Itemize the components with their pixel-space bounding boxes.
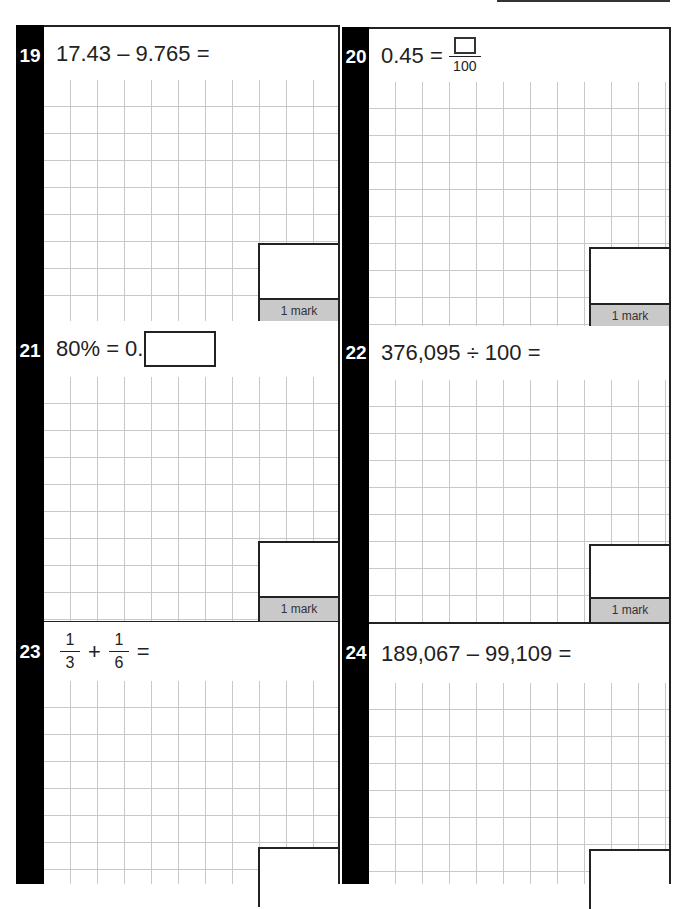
question-number-bar: 23 (16, 622, 44, 884)
top-rule (497, 0, 670, 2)
answer-box[interactable]: 1 mark (589, 247, 669, 330)
question-header: 17.43 – 9.765 = (44, 27, 338, 82)
mark-label: 1 mark (260, 298, 338, 323)
denominator: 100 (453, 58, 476, 74)
question-number: 23 (16, 641, 44, 663)
question-number-bar: 22 (342, 326, 370, 624)
question-number: 21 (16, 340, 44, 362)
numerator-answer-box[interactable] (454, 37, 476, 54)
fraction-bar (449, 56, 481, 58)
fraction-one-sixth: 1 6 (109, 631, 129, 673)
question-number-bar: 24 (342, 624, 370, 884)
fraction-answer: 100 (449, 37, 481, 75)
question-20-panel: 20 0.45 = 100 1 mark (342, 27, 671, 328)
question-body: 0.45 = 100 1 mark (369, 27, 671, 328)
answer-box[interactable] (258, 847, 338, 907)
question-header: 376,095 ÷ 100 = (369, 326, 669, 382)
plus-operator: + (88, 639, 101, 665)
fraction-bar (60, 651, 80, 653)
mark-label: 1 mark (260, 596, 338, 621)
denominator: 6 (114, 654, 123, 672)
answer-box[interactable]: 1 mark (589, 544, 669, 624)
fraction-bar (109, 651, 129, 653)
numerator: 1 (66, 631, 75, 649)
question-body: 1 3 + 1 6 = (44, 622, 340, 884)
question-number: 24 (342, 642, 370, 664)
question-23-panel: 23 1 3 + 1 6 = (16, 622, 340, 884)
question-number-bar: 19 (16, 25, 44, 323)
question-24-panel: 24 189,067 – 99,109 = (342, 624, 671, 884)
equals-sign: = (137, 639, 150, 665)
question-number: 20 (342, 46, 370, 68)
question-number-bar: 21 (16, 321, 44, 623)
question-expression: 189,067 – 99,109 = (381, 641, 571, 667)
answer-box[interactable]: 1 mark (258, 243, 338, 325)
question-number: 19 (16, 45, 44, 67)
question-19-panel: 19 17.43 – 9.765 = 1 mark (16, 25, 340, 323)
question-22-panel: 22 376,095 ÷ 100 = 1 mark (342, 326, 671, 624)
answer-input-box[interactable] (144, 331, 216, 367)
denominator: 3 (66, 654, 75, 672)
question-number: 22 (342, 342, 370, 364)
question-body: 189,067 – 99,109 = (369, 624, 671, 884)
mark-label: 1 mark (591, 597, 669, 622)
question-header: 189,067 – 99,109 = (369, 624, 669, 685)
answer-box[interactable] (589, 849, 669, 909)
question-body: 17.43 – 9.765 = 1 mark (44, 25, 340, 323)
question-header: 0.45 = 100 (369, 29, 669, 84)
fraction-one-third: 1 3 (60, 631, 80, 673)
question-expression: 17.43 – 9.765 = (56, 41, 210, 67)
question-number-bar: 20 (342, 27, 370, 328)
question-body: 376,095 ÷ 100 = 1 mark (369, 326, 671, 624)
question-expression: 376,095 ÷ 100 = (381, 340, 541, 366)
question-expression: 0.45 = (381, 43, 443, 69)
mark-label: 1 mark (591, 303, 669, 328)
answer-box[interactable]: 1 mark (258, 541, 338, 623)
question-expression: 80% = 0. (56, 336, 143, 362)
numerator: 1 (114, 631, 123, 649)
question-body: 80% = 0. 1 mark (44, 321, 340, 623)
question-header: 1 3 + 1 6 = (44, 622, 338, 683)
question-21-panel: 21 80% = 0. 1 mark (16, 321, 340, 623)
question-header: 80% = 0. (44, 321, 338, 379)
